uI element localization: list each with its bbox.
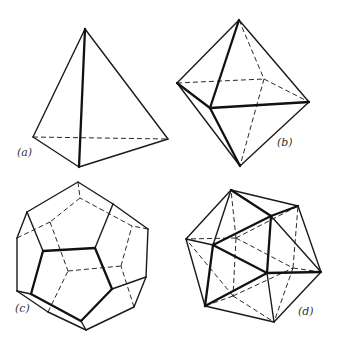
octahedron-front-edge [210,102,309,108]
icosahedron-hidden-edge [236,206,298,238]
tetrahedron-visible-edge [85,29,168,139]
dodecahedron-visible-edge [146,229,148,277]
dodecahedron-hidden-edge [121,266,134,307]
icosahedron-hidden-edge [293,206,298,268]
tetrahedron-visible-edge [33,29,85,137]
tetrahedron-visible-edge [79,139,168,167]
dodecahedron-visible-edge [78,182,113,204]
octahedron-hidden-edge [239,20,264,79]
panel-label-d: (d) [298,305,314,318]
octahedron-visible-edge [177,83,240,166]
panel-label-b: (b) [277,136,293,149]
polyhedra-figure: (a) (b) (c) (d) [0,0,339,350]
tetrahedron-hidden-edge [33,137,168,139]
octahedron-visible-edge [239,20,309,102]
dodecahedron-visible-edge [27,212,43,251]
icosahedron-front-edge [231,190,271,216]
octahedron-panel: (b) [177,20,309,166]
dodecahedron-panel: (c) [15,182,148,330]
icosahedron-front-edge [267,272,321,273]
dodecahedron-hidden-edge [50,222,68,271]
icosahedron-edges [186,190,321,322]
icosahedron-hidden-edge [236,238,293,268]
dodecahedron-visible-edge [86,307,134,330]
dodecahedron-front-edge [31,251,43,294]
icosahedron-visible-edge [205,306,274,322]
octahedron-front-edge [210,20,239,108]
icosahedron-visible-edge [186,239,205,306]
icosahedron-hidden-edge [231,190,236,238]
tetrahedron-panel: (a) [17,29,168,167]
icosahedron-visible-edge [271,216,321,272]
icosahedron-panel: (d) [186,190,321,322]
dodecahedron-edges [17,182,148,330]
dodecahedron-front-edge [43,248,95,251]
dodecahedron-visible-edge [112,277,146,289]
tetrahedron-edges [33,29,168,167]
icosahedron-hidden-edge [233,296,274,322]
octahedron-front-edge [210,108,240,166]
dodecahedron-front-edge [31,294,81,321]
dodecahedron-visible-edge [134,277,146,307]
icosahedron-hidden-edge [274,268,293,322]
dodecahedron-front-edge [95,248,112,289]
octahedron-visible-edge [240,102,309,166]
dodecahedron-hidden-edge [121,226,132,266]
tetrahedron-visible-edge [33,137,79,167]
dodecahedron-hidden-edge [50,198,80,222]
icosahedron-visible-edge [267,273,274,322]
dodecahedron-visible-edge [27,182,78,212]
icosahedron-visible-edge [231,190,298,206]
icosahedron-front-edge [205,245,213,306]
icosahedron-front-edge [267,216,271,273]
icosahedron-hidden-edge [233,238,236,296]
icosahedron-visible-edge [186,190,231,239]
icosahedron-front-edge [213,245,267,273]
dodecahedron-hidden-edge [68,266,121,271]
panel-label-c: (c) [15,302,30,315]
dodecahedron-hidden-edge [78,182,80,198]
icosahedron-visible-edge [298,206,321,272]
tetrahedron-front-edge [79,29,85,167]
octahedron-hidden-edge [264,79,309,102]
octahedron-hidden-edge [240,79,264,166]
dodecahedron-front-edge [81,289,112,321]
dodecahedron-visible-edge [95,204,113,248]
icosahedron-front-edge [271,206,298,216]
icosahedron-front-edge [205,273,267,306]
panel-label-a: (a) [17,146,32,159]
